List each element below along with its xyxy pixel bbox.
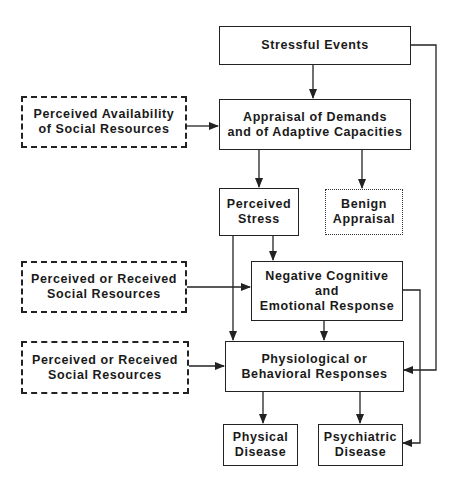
node-label: Physiological or Behavioral Responses [241, 352, 387, 382]
node-label: Perceived or Received Social Resources [32, 353, 178, 383]
node-label: Negative Cognitive and Emotional Respons… [260, 269, 394, 314]
node-label: Perceived Availability of Social Resourc… [34, 107, 175, 137]
node-label: Stressful Events [261, 38, 369, 53]
node-label: Appraisal of Demands and of Adaptive Cap… [228, 110, 403, 140]
connector-lines [0, 0, 455, 480]
node-label: Perceived or Received Social Resources [31, 272, 177, 302]
node-physical-disease: Physical Disease [223, 424, 298, 466]
node-stressful-events: Stressful Events [219, 26, 411, 65]
node-label: Perceived Stress [227, 197, 291, 227]
node-social-resources-1: Perceived or Received Social Resources [21, 261, 187, 313]
node-physiological: Physiological or Behavioral Responses [225, 341, 404, 392]
node-psychiatric-disease: Psychiatric Disease [318, 424, 403, 466]
node-benign-appraisal: Benign Appraisal [325, 189, 403, 235]
node-label: Benign Appraisal [333, 197, 395, 227]
node-social-resources-2: Perceived or Received Social Resources [21, 341, 189, 394]
node-perceived-stress: Perceived Stress [219, 188, 299, 236]
node-appraisal: Appraisal of Demands and of Adaptive Cap… [219, 99, 411, 150]
edge-negative-to-psychiatric [402, 290, 420, 443]
node-negative-response: Negative Cognitive and Emotional Respons… [251, 261, 403, 321]
node-label: Psychiatric Disease [324, 430, 397, 460]
node-label: Physical Disease [233, 430, 289, 460]
node-perceived-availability: Perceived Availability of Social Resourc… [21, 96, 187, 148]
